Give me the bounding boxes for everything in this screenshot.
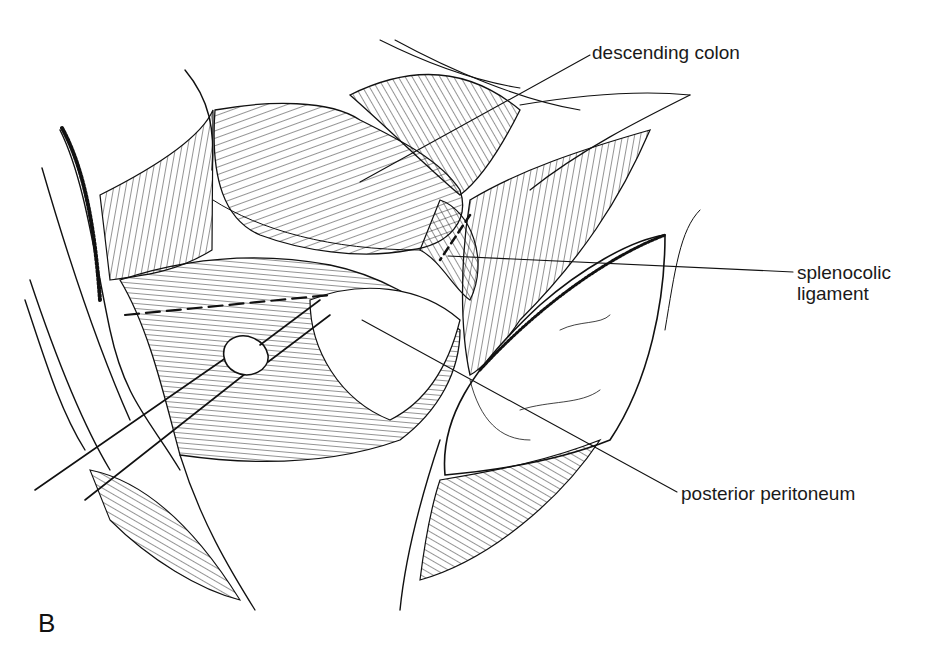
label-splenocolic-line2: ligament (797, 283, 891, 304)
panel-letter: B (38, 608, 55, 639)
label-posterior-peritoneum: posterior peritoneum (681, 483, 855, 504)
label-posterior-peritoneum-text: posterior peritoneum (681, 483, 855, 504)
label-descending-colon-text: descending colon (592, 42, 740, 63)
lower-left-muscle (90, 470, 240, 600)
label-splenocolic-line1: splenocolic (797, 262, 891, 283)
retractor-edge-left (62, 128, 100, 300)
anatomy-drawing (0, 0, 932, 660)
label-splenocolic-ligament: splenocolic ligament (797, 262, 891, 304)
illustration-canvas: descending colon splenocolic ligament po… (0, 0, 932, 660)
label-descending-colon: descending colon (592, 42, 740, 63)
left-muscle (100, 110, 213, 280)
